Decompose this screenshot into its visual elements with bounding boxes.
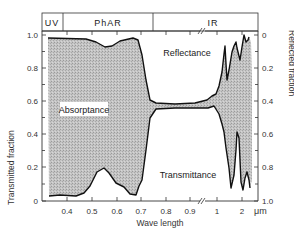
svg-text:0.8: 0.8 [160,207,172,216]
svg-text:0: 0 [34,197,39,206]
svg-text:0.4: 0.4 [262,97,274,106]
x-tick-labels: 0.4 0.5 0.6 0.7 0.8 0.9 1 2 μm [61,206,266,216]
right-y-axis-ticks [254,35,258,201]
svg-text:0.8: 0.8 [262,163,274,172]
svg-text:0.2: 0.2 [27,163,39,172]
svg-text:0.2: 0.2 [262,64,274,73]
svg-text:2: 2 [240,207,245,216]
x-axis-ticks [67,197,242,201]
svg-text:0.5: 0.5 [86,207,98,216]
absorptance-label: Absorptance [59,105,110,115]
spectral-chart: UV PhAR IR 1.0 0.8 [0,0,294,240]
x-unit-label: μm [254,206,267,216]
svg-text:0.6: 0.6 [111,207,123,216]
svg-text:0.4: 0.4 [61,207,73,216]
band-label-phar: PhAR [94,18,122,28]
reflectance-label: Reflectance [163,48,211,58]
right-y-tick-labels: 0 0.2 0.4 0.6 0.8 1.0 [262,31,274,206]
svg-text:0.6: 0.6 [262,130,274,139]
y-right-axis-title: Reflected fraction [287,30,294,96]
svg-text:0.8: 0.8 [27,64,39,73]
left-y-tick-labels: 1.0 0.8 0.6 0.4 0.2 0 [27,31,39,206]
svg-text:0.9: 0.9 [184,207,196,216]
x-axis-top-ticks [67,31,242,35]
svg-text:0.6: 0.6 [27,97,39,106]
band-header: UV PhAR IR [42,13,258,31]
svg-text:0.7: 0.7 [135,207,147,216]
svg-text:0: 0 [262,31,267,40]
transmittance-label: Transmittance [160,170,217,180]
svg-text:1: 1 [215,207,220,216]
band-label-uv: UV [45,18,60,28]
svg-text:1.0: 1.0 [262,197,274,206]
left-y-axis-ticks [42,35,46,201]
svg-text:0.4: 0.4 [27,130,39,139]
x-axis-title: Wave length [137,218,184,228]
svg-text:1.0: 1.0 [27,31,39,40]
y-left-axis-title: Transmitted fraction [6,130,16,205]
band-label-ir: IR [208,18,219,28]
